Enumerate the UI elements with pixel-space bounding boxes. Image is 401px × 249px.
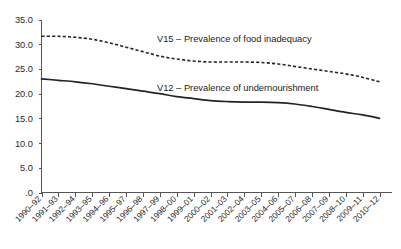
series-label-v15: V15 – Prevalence of food inadequacy (157, 34, 312, 44)
chart-container: 35.030.025.020.015.010.05.0.0 1990–92199… (0, 0, 401, 249)
line-chart: 35.030.025.020.015.010.05.0.0 1990–92199… (0, 0, 401, 249)
y-axis-tick-label: 10.0 (15, 139, 33, 149)
y-axis-tick-label: 25.0 (15, 64, 33, 74)
y-axis-tick-label: .0 (25, 188, 33, 198)
y-axis-tick-label: 5.0 (20, 163, 33, 173)
x-axis-tick-marks (43, 193, 381, 197)
y-axis-tick-label: 35.0 (15, 15, 33, 25)
y-axis-tick-label: 15.0 (15, 114, 33, 124)
y-axis-tick-labels: 35.030.025.020.015.010.05.0.0 (15, 15, 33, 198)
series-label-v12: V12 – Prevalence of undernourishment (157, 83, 319, 93)
y-axis-tick-label: 30.0 (15, 40, 33, 50)
x-axis-tick-labels: 1990–921991–931992–941993–951994–961995–… (13, 194, 381, 224)
y-axis-tick-label: 20.0 (15, 89, 33, 99)
